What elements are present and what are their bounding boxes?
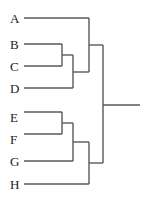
leaf-label-h: H (10, 178, 19, 191)
dendrogram-link-group (24, 18, 140, 184)
leaf-label-a: A (10, 12, 19, 25)
leaf-label-b: B (10, 38, 19, 51)
leaf-label-f: F (10, 133, 17, 146)
leaf-label-d: D (10, 82, 19, 95)
dendrogram-figure: ABCDEFGH (0, 0, 145, 203)
leaf-label-g: G (10, 155, 19, 168)
dendrogram-canvas (0, 0, 145, 203)
leaf-label-e: E (10, 111, 18, 124)
leaf-label-c: C (10, 60, 19, 73)
